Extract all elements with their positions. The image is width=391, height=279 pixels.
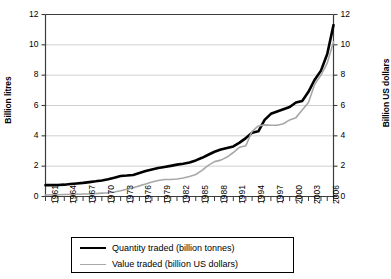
x-axis-tick-label: 1964 xyxy=(68,185,78,204)
legend-label-quantity: Quantity traded (billion tonnes) xyxy=(112,243,235,253)
x-axis-tick-label: 2006 xyxy=(331,185,341,204)
x-axis-tick-label: 1994 xyxy=(256,185,266,204)
legend-item-value: Value traded (billion US dollars) xyxy=(80,256,238,272)
x-axis-tick-label: 1970 xyxy=(106,185,116,204)
x-axis-tick-label: 1979 xyxy=(162,185,172,204)
legend-item-quantity: Quantity traded (billion tonnes) xyxy=(80,240,235,256)
x-axis-tick-label: 1982 xyxy=(181,185,191,204)
legend-swatch-value-icon xyxy=(80,264,106,265)
y-axis-right-tick-label: 4 xyxy=(341,130,361,140)
y-axis-left-tick-label: 2 xyxy=(19,160,39,170)
legend-label-value: Value traded (billion US dollars) xyxy=(112,259,238,269)
x-axis-tick-label: 1991 xyxy=(237,185,247,204)
data-series xyxy=(46,25,334,195)
y-axis-left-tick-label: 10 xyxy=(19,39,39,49)
y-axis-left-tick-label: 0 xyxy=(19,191,39,201)
y-axis-right-tick-label: 8 xyxy=(341,69,361,79)
x-axis-tick-label: 1973 xyxy=(125,185,135,204)
chart-legend: Quantity traded (billion tonnes) Value t… xyxy=(71,237,294,273)
y-axis-right-title: Billion US dollars xyxy=(381,47,391,139)
x-axis-tick-label: 1997 xyxy=(275,185,285,204)
y-axis-left-title: Billion litres xyxy=(3,65,13,135)
series-line-value xyxy=(46,42,334,195)
y-axis-right-tick-label: 10 xyxy=(341,39,361,49)
y-axis-right-tick-label: 2 xyxy=(341,160,361,170)
x-axis-tick-label: 2000 xyxy=(294,185,304,204)
y-axis-right-tick-label: 6 xyxy=(341,100,361,110)
gridlines xyxy=(46,15,334,167)
y-axis-left-tick-label: 6 xyxy=(19,100,39,110)
x-axis-tick-label: 1961 xyxy=(50,185,60,204)
x-axis-tick-label: 1967 xyxy=(87,185,97,204)
x-axis-tick-label: 1976 xyxy=(143,185,153,204)
x-axis-tick-label: 1985 xyxy=(200,185,210,204)
y-axis-right-tick-label: 0 xyxy=(341,191,361,201)
y-axis-left-tick-label: 12 xyxy=(19,9,39,19)
legend-swatch-quantity-icon xyxy=(80,247,106,249)
y-axis-left-tick-label: 8 xyxy=(19,69,39,79)
x-axis-tick-label: 1988 xyxy=(219,185,229,204)
y-axis-right-tick-label: 12 xyxy=(341,9,361,19)
x-axis-tick-label: 2003 xyxy=(312,185,322,204)
y-axis-left-tick-label: 4 xyxy=(19,130,39,140)
